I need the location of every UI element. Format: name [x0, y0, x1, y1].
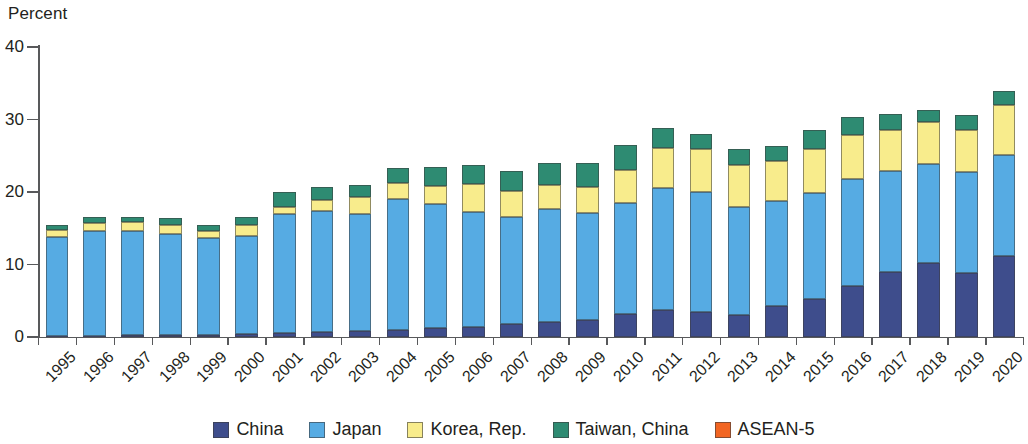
bar-segment[interactable] [121, 335, 144, 337]
bar-segment[interactable] [614, 314, 637, 337]
bar-segment[interactable] [652, 188, 675, 311]
bar-segment[interactable] [955, 273, 978, 337]
bar-column[interactable] [728, 47, 751, 337]
bar-segment[interactable] [235, 217, 258, 225]
bar-column[interactable] [993, 47, 1016, 337]
bar-segment[interactable] [462, 184, 485, 212]
legend-item[interactable]: Japan [309, 419, 381, 440]
bar-segment[interactable] [955, 115, 978, 130]
bar-segment[interactable] [46, 225, 69, 231]
bar-segment[interactable] [159, 225, 182, 234]
bar-segment[interactable] [576, 163, 599, 187]
bar-segment[interactable] [197, 335, 220, 337]
bar-segment[interactable] [197, 238, 220, 334]
bar-segment[interactable] [841, 286, 864, 337]
bar-segment[interactable] [538, 185, 561, 209]
bar-segment[interactable] [387, 183, 410, 198]
bar-column[interactable] [841, 47, 864, 337]
bar-segment[interactable] [462, 327, 485, 337]
bar-segment[interactable] [993, 256, 1016, 337]
bar-segment[interactable] [159, 234, 182, 335]
bar-segment[interactable] [576, 213, 599, 320]
bar-segment[interactable] [728, 315, 751, 337]
bar-segment[interactable] [424, 328, 447, 337]
bar-segment[interactable] [879, 171, 902, 273]
bar-segment[interactable] [349, 197, 372, 214]
bar-segment[interactable] [387, 168, 410, 183]
bar-segment[interactable] [83, 217, 106, 223]
bar-segment[interactable] [273, 207, 296, 214]
bar-column[interactable] [83, 47, 106, 337]
bar-segment[interactable] [993, 91, 1016, 106]
bar-segment[interactable] [349, 214, 372, 331]
bar-segment[interactable] [765, 146, 788, 161]
legend-item[interactable]: Taiwan, China [553, 419, 689, 440]
bar-segment[interactable] [538, 322, 561, 337]
bar-segment[interactable] [765, 201, 788, 305]
bar-segment[interactable] [652, 128, 675, 148]
bar-column[interactable] [121, 47, 144, 337]
bar-column[interactable] [424, 47, 447, 337]
bar-segment[interactable] [576, 187, 599, 213]
bar-column[interactable] [273, 47, 296, 337]
bar-segment[interactable] [462, 212, 485, 327]
bar-segment[interactable] [500, 191, 523, 218]
bar-segment[interactable] [690, 149, 713, 192]
bar-segment[interactable] [803, 299, 826, 337]
bar-segment[interactable] [387, 330, 410, 337]
legend-item[interactable]: ASEAN-5 [715, 419, 815, 440]
bar-segment[interactable] [652, 148, 675, 188]
bar-segment[interactable] [121, 222, 144, 231]
bar-segment[interactable] [841, 117, 864, 136]
bar-segment[interactable] [46, 237, 69, 336]
bar-segment[interactable] [993, 105, 1016, 155]
bar-segment[interactable] [197, 231, 220, 238]
bar-segment[interactable] [917, 110, 940, 122]
bar-segment[interactable] [424, 167, 447, 186]
bar-segment[interactable] [235, 236, 258, 334]
bar-segment[interactable] [83, 223, 106, 231]
bar-segment[interactable] [955, 172, 978, 273]
bar-column[interactable] [652, 47, 675, 337]
bar-segment[interactable] [993, 155, 1016, 256]
bar-segment[interactable] [424, 204, 447, 329]
bar-column[interactable] [500, 47, 523, 337]
bar-segment[interactable] [690, 134, 713, 149]
bar-segment[interactable] [500, 324, 523, 337]
bar-segment[interactable] [955, 130, 978, 172]
bar-column[interactable] [235, 47, 258, 337]
bar-segment[interactable] [311, 332, 334, 337]
bar-column[interactable] [387, 47, 410, 337]
bar-segment[interactable] [349, 185, 372, 197]
bar-column[interactable] [614, 47, 637, 337]
bar-segment[interactable] [462, 165, 485, 184]
bar-column[interactable] [803, 47, 826, 337]
bar-segment[interactable] [235, 225, 258, 236]
bar-column[interactable] [917, 47, 940, 337]
bar-column[interactable] [765, 47, 788, 337]
bar-segment[interactable] [728, 149, 751, 165]
bar-segment[interactable] [538, 163, 561, 185]
bar-column[interactable] [462, 47, 485, 337]
bar-segment[interactable] [652, 310, 675, 337]
bar-column[interactable] [197, 47, 220, 337]
bar-segment[interactable] [917, 263, 940, 337]
bar-segment[interactable] [879, 130, 902, 171]
bar-segment[interactable] [879, 272, 902, 337]
bar-segment[interactable] [349, 331, 372, 337]
bar-segment[interactable] [311, 200, 334, 211]
bar-segment[interactable] [500, 217, 523, 324]
bar-segment[interactable] [197, 225, 220, 231]
bar-segment[interactable] [424, 186, 447, 203]
bar-segment[interactable] [765, 306, 788, 337]
bar-segment[interactable] [841, 179, 864, 286]
bar-column[interactable] [538, 47, 561, 337]
bar-column[interactable] [879, 47, 902, 337]
legend-item[interactable]: Korea, Rep. [407, 419, 526, 440]
bar-segment[interactable] [538, 209, 561, 322]
bar-segment[interactable] [803, 193, 826, 300]
bar-segment[interactable] [728, 165, 751, 207]
bar-segment[interactable] [121, 231, 144, 335]
bar-column[interactable] [311, 47, 334, 337]
bar-segment[interactable] [841, 135, 864, 179]
